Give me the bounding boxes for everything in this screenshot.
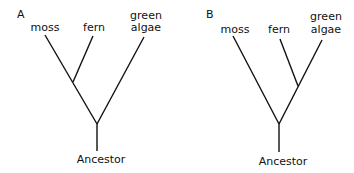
taxon-fern: fern: [83, 21, 105, 34]
branch-moss: [45, 35, 97, 124]
taxon-algae: algae: [311, 23, 342, 36]
root-label: Ancestor: [77, 153, 126, 166]
taxon-moss: moss: [31, 21, 60, 34]
panel-label-a: A: [17, 8, 25, 21]
taxon-moss: moss: [221, 23, 250, 36]
tree-a: A moss fern green algae Ancestor: [17, 8, 162, 166]
branch-fern: [280, 39, 298, 86]
taxon-green: green: [310, 10, 342, 23]
taxon-fern: fern: [268, 23, 290, 36]
phylogenetic-trees-figure: A moss fern green algae Ancestor B moss …: [0, 0, 354, 173]
branch-fern: [73, 36, 93, 82]
taxon-algae: algae: [131, 21, 162, 34]
branch-algae: [97, 37, 144, 124]
panel-label-b: B: [206, 8, 214, 21]
tree-b: B moss fern green algae Ancestor: [206, 8, 342, 168]
branch-moss: [233, 36, 279, 124]
root-label: Ancestor: [259, 155, 308, 168]
